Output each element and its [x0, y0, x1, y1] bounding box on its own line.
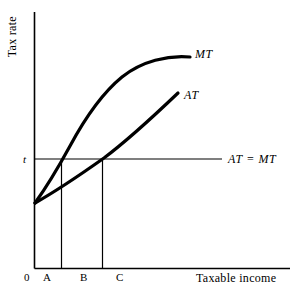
x-axis-title: Taxable income — [196, 272, 276, 284]
x-tick-label-b: B — [80, 272, 87, 283]
chart-plot-area — [0, 0, 302, 300]
mt-curve — [35, 57, 190, 203]
y-axis-title: Tax rate — [6, 16, 18, 57]
x-tick-label-c: C — [116, 272, 123, 283]
mt-curve-label: MT — [195, 48, 213, 60]
at-curve — [35, 93, 178, 203]
at-curve-label: AT — [184, 89, 199, 101]
x-tick-label-a: A — [43, 272, 51, 283]
tax-rate-chart: Tax rate Taxable income MT AT AT = MT t … — [0, 0, 302, 300]
origin-label: 0 — [24, 272, 30, 283]
at-equals-mt-label: AT = MT — [228, 153, 276, 165]
y-tick-label-t: t — [23, 154, 26, 165]
